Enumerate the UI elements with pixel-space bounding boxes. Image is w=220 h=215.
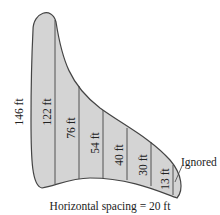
measure-label-2: 76 ft xyxy=(65,116,77,138)
ignored-label: Ignored xyxy=(181,156,217,169)
left-edge-label: 146 ft xyxy=(13,98,25,126)
measure-label-1: 122 ft xyxy=(41,98,53,126)
measure-label-3: 54 ft xyxy=(89,131,101,153)
measure-label-5: 30 ft xyxy=(137,153,149,175)
measure-label-6: 13 ft xyxy=(159,167,171,189)
measure-label-4: 40 ft xyxy=(113,143,125,165)
area-diagram: 146 ft 122 ft 76 ft 54 ft 40 ft 30 ft 13… xyxy=(0,0,220,215)
caption: Horizontal spacing = 20 ft xyxy=(50,200,172,213)
